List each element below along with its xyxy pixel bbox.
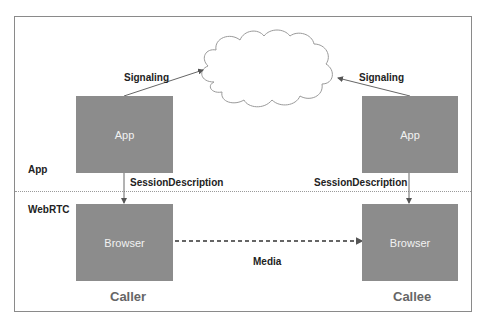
app-layer-label: App: [28, 164, 47, 175]
signaling-right-label: Signaling: [359, 72, 404, 83]
callee-app-box: App: [362, 96, 458, 173]
caller-session-description-label: SessionDescription: [130, 177, 223, 188]
caller-app-box: App: [76, 96, 173, 173]
caller-browser-label: Browser: [104, 237, 144, 249]
signaling-left-label: Signaling: [124, 72, 169, 83]
caller-browser-box: Browser: [76, 204, 173, 281]
callee-session-description-label: SessionDescription: [314, 177, 407, 188]
caller-label: Caller: [110, 289, 146, 304]
caller-app-label: App: [115, 129, 135, 141]
callee-label: Callee: [393, 289, 431, 304]
cloud-icon: [202, 30, 333, 107]
callee-browser-box: Browser: [362, 204, 458, 281]
webrtc-layer-label: WebRTC: [28, 204, 69, 215]
callee-app-label: App: [400, 129, 420, 141]
callee-browser-label: Browser: [390, 237, 430, 249]
media-label: Media: [253, 256, 281, 267]
